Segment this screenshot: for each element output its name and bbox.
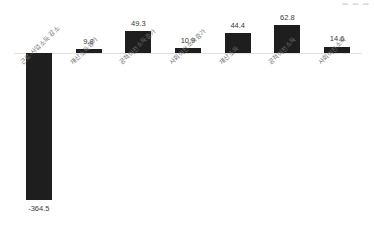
bar-value-label: -364.5 [9, 204, 69, 213]
bar-chart: ▬ ▬ ▬ -364.59.849.310.944.462.814.6 근로·사… [0, 0, 374, 226]
category-label: 사회이전소득증가 [168, 27, 208, 67]
bar-value-label: 44.4 [208, 21, 268, 30]
cropped-header-fragment: ▬ ▬ ▬ [342, 0, 370, 6]
bar [26, 53, 52, 200]
zero-baseline-axis [14, 53, 362, 54]
bar-value-label: 62.8 [257, 13, 317, 22]
bar-value-label: 49.3 [108, 19, 168, 28]
